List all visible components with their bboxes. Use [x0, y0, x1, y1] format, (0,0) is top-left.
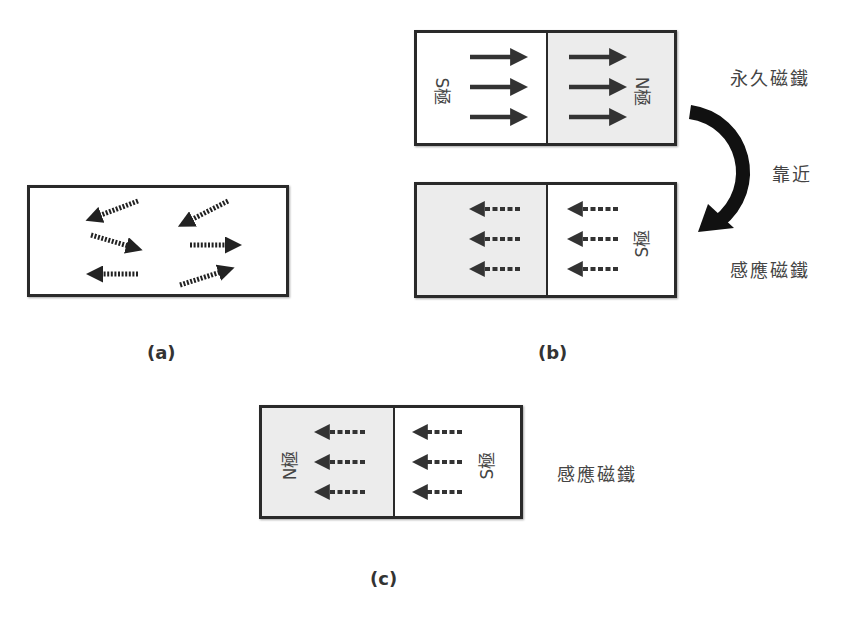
- permanent-magnet-label: 永久磁鐵: [730, 64, 810, 90]
- approach-label: 靠近: [772, 160, 812, 186]
- figure-a-caption: (a): [147, 342, 176, 363]
- figure-a-domain-arrows: [27, 185, 289, 297]
- induced-magnet-b-label: 感應磁鐵: [730, 256, 810, 282]
- figure-b-caption: (b): [538, 342, 567, 363]
- figure-c-caption: (c): [370, 568, 397, 589]
- domain-arrow-icon: [91, 235, 135, 248]
- domain-arrow-icon: [185, 201, 228, 223]
- domain-arrow-icon: [93, 201, 138, 218]
- induced-magnet-c-label: 感應磁鐵: [557, 460, 637, 486]
- curved-approach-arrow-icon: [690, 100, 770, 240]
- induced-magnet-c-field-arrows: [259, 405, 523, 519]
- permanent-magnet-field-arrows: [414, 30, 677, 146]
- domain-arrow-icon: [180, 270, 227, 285]
- induced-magnet-b-field-arrows: [414, 182, 677, 298]
